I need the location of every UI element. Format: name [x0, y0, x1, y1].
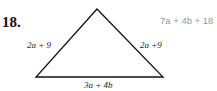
bottom-side-label: 3a + 4b — [84, 80, 113, 90]
left-side-label: 2a + 9 — [27, 40, 51, 50]
right-side-label: 2a +9 — [140, 40, 162, 50]
